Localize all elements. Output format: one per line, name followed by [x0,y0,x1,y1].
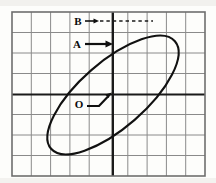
oscilloscope-figure: B A O [0,0,216,183]
label-o-text: O [75,98,84,110]
top-margin [0,0,216,6]
bottom-margin [0,178,216,183]
label-b-text: B [74,15,82,27]
label-a-text: A [73,38,81,50]
figure-canvas: B A O [0,0,216,183]
